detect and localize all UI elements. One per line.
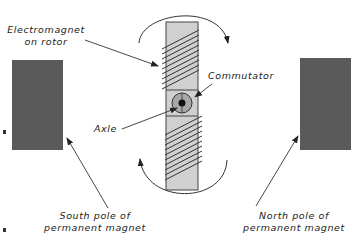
electromagnet-label-line2: on rotor xyxy=(6,36,86,48)
left-edge-marks xyxy=(3,130,6,232)
north-label-line2: permanent magnet xyxy=(236,222,352,234)
south-label-line2: permanent magnet xyxy=(40,222,150,234)
commutator-label-text: Commutator xyxy=(208,70,274,81)
south-pole-label: South pole of permanent magnet xyxy=(40,210,150,234)
south-leader xyxy=(67,138,108,208)
north-label-line1: North pole of xyxy=(236,210,352,222)
axle-label-text: Axle xyxy=(94,123,117,134)
north-pole-label: North pole of permanent magnet xyxy=(236,210,352,234)
electromagnet-label-line1: Electromagnet xyxy=(6,24,86,36)
south-pole-magnet xyxy=(12,60,63,150)
axle-icon xyxy=(179,100,186,107)
axle-label: Axle xyxy=(94,123,117,135)
electromagnet-label: Electromagnet on rotor xyxy=(6,24,86,48)
south-label-line1: South pole of xyxy=(40,210,150,222)
electromagnet-leader xyxy=(85,40,158,66)
north-pole-magnet xyxy=(300,58,351,150)
north-leader xyxy=(256,136,298,206)
commutator-label: Commutator xyxy=(208,70,274,82)
